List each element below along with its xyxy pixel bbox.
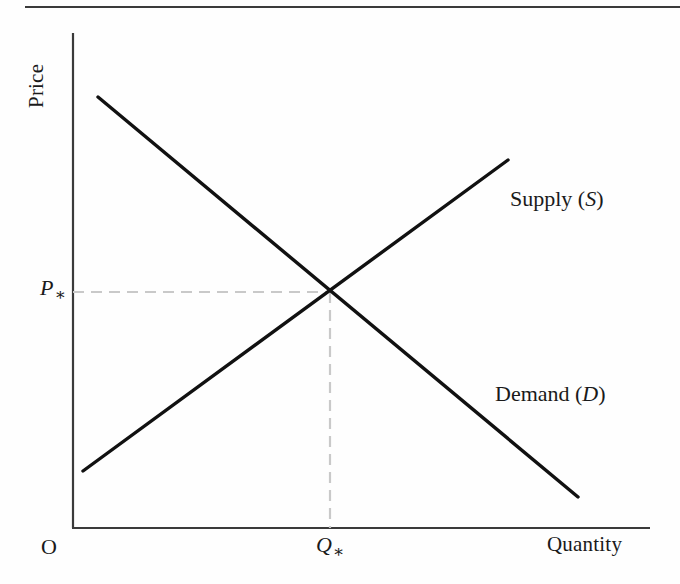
demand-label-symbol: D bbox=[582, 381, 598, 406]
supply-label-close: ) bbox=[596, 186, 603, 211]
y-axis-title: Price bbox=[26, 64, 47, 108]
origin-label: O bbox=[41, 536, 57, 558]
supply-curve bbox=[83, 160, 508, 471]
supply-curve-label: Supply (S) bbox=[510, 186, 604, 212]
equilibrium-quantity-subscript: ∗ bbox=[332, 542, 345, 561]
equilibrium-quantity-symbol: Q bbox=[316, 532, 332, 557]
supply-label-symbol: S bbox=[585, 186, 596, 211]
equilibrium-price-subscript: ∗ bbox=[54, 285, 67, 304]
equilibrium-price-symbol: P bbox=[40, 275, 54, 300]
demand-label-text: Demand ( bbox=[495, 381, 582, 406]
supply-label-text: Supply ( bbox=[510, 186, 585, 211]
equilibrium-quantity-label: Q∗ bbox=[316, 534, 345, 560]
demand-curve-label: Demand (D) bbox=[495, 381, 606, 407]
plot-canvas bbox=[0, 0, 680, 584]
supply-demand-figure: Price Quantity O P∗ Q∗ Supply (S) Demand… bbox=[0, 0, 680, 584]
equilibrium-price-label: P∗ bbox=[40, 277, 66, 303]
demand-curve bbox=[98, 97, 578, 497]
x-axis-title: Quantity bbox=[547, 534, 622, 555]
demand-label-close: ) bbox=[598, 381, 605, 406]
